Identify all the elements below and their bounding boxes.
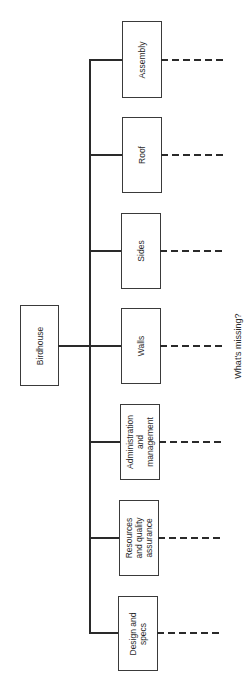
branch-connector: [90, 250, 123, 252]
child-node-label: Resources and quality assurance: [124, 517, 154, 558]
child-node-assembly: Assembly: [122, 21, 162, 98]
dashed-extension: [161, 59, 225, 61]
child-node-administration: Administration and management: [120, 404, 160, 480]
whats-missing-note: What's missing?: [233, 313, 243, 378]
child-node-label: Assembly: [137, 41, 147, 78]
dashed-extension: [160, 345, 224, 347]
dashed-extension: [161, 154, 225, 156]
branch-connector: [90, 537, 120, 539]
child-node-label: Administration and management: [125, 415, 155, 469]
dashed-extension: [157, 632, 222, 634]
branch-connector: [90, 345, 122, 347]
child-node-walls: Walls: [121, 308, 161, 384]
branch-connector: [90, 59, 123, 61]
branch-connector: [90, 154, 123, 156]
child-node-resources: Resources and quality assurance: [119, 500, 159, 576]
root-node-birdhouse: Birdhouse: [20, 305, 59, 386]
branch-connector: [89, 632, 119, 634]
root-node-label: Birdhouse: [35, 326, 45, 364]
child-node-roof: Roof: [122, 117, 162, 193]
branch-connector: [90, 441, 121, 443]
root-connector: [58, 345, 90, 347]
child-node-label: Sides: [136, 240, 146, 261]
dashed-extension: [160, 250, 225, 252]
dashed-extension: [158, 537, 222, 539]
child-node-sides: Sides: [121, 213, 161, 289]
child-node-label: Walls: [136, 336, 146, 356]
child-node-design: Design and specs: [118, 596, 158, 671]
child-node-label: Roof: [137, 146, 147, 164]
child-node-label: Design and specs: [128, 612, 148, 655]
dashed-extension: [159, 441, 223, 443]
